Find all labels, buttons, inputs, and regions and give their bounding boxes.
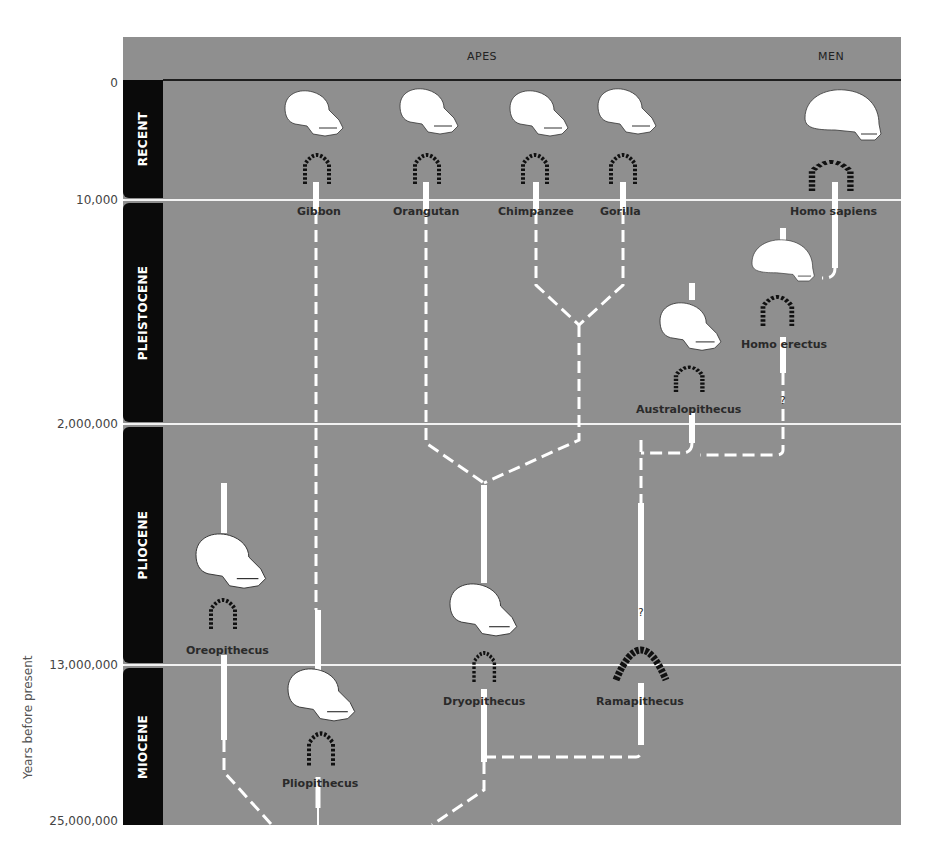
homo-erectus-teeth-icon [763,297,792,326]
species-label-homo-erectus: Homo erectus [741,338,827,351]
species-label-australopithecus: Australopithecus [636,403,741,416]
orangutan-teeth-icon [415,155,439,184]
species-label-oreopithecus: Oreopithecus [186,644,269,657]
gorilla-teeth-icon [611,155,635,184]
species-label-gorilla: Gorilla [600,205,641,218]
australopithecus-teeth-icon [676,367,702,392]
dryopithecus-skull-icon [450,584,517,636]
gibbon-teeth-icon [305,155,329,184]
ramapithecus-teeth-icon [616,650,666,680]
species-label-gibbon: Gibbon [297,205,341,218]
chimpanzee-skull-icon [510,91,568,136]
australopithecus-skull-icon [660,303,721,350]
pliopithecus-skull-icon [288,669,355,721]
pliopithecus-teeth-icon [309,734,333,766]
oreopithecus-skull-icon [196,534,266,588]
homo-erectus-skull-icon [752,240,814,281]
species-label-homo-sapiens: Homo sapiens [790,205,877,218]
dryopithecus-teeth-icon [474,653,494,682]
gorilla-skull-icon [598,89,656,134]
skull-illustrations [0,0,935,861]
species-label-orangutan: Orangutan [393,205,459,218]
species-label-chimpanzee: Chimpanzee [498,205,574,218]
gibbon-skull-icon [285,91,343,136]
homo-sapiens-teeth-icon [812,162,850,191]
chimpanzee-teeth-icon [523,155,547,184]
species-label-pliopithecus: Pliopithecus [282,777,358,790]
species-label-dryopithecus: Dryopithecus [443,695,525,708]
oreopithecus-teeth-icon [211,600,235,629]
orangutan-skull-icon [400,89,458,134]
homo-sapiens-skull-icon [805,90,881,140]
species-label-ramapithecus: Ramapithecus [596,695,684,708]
